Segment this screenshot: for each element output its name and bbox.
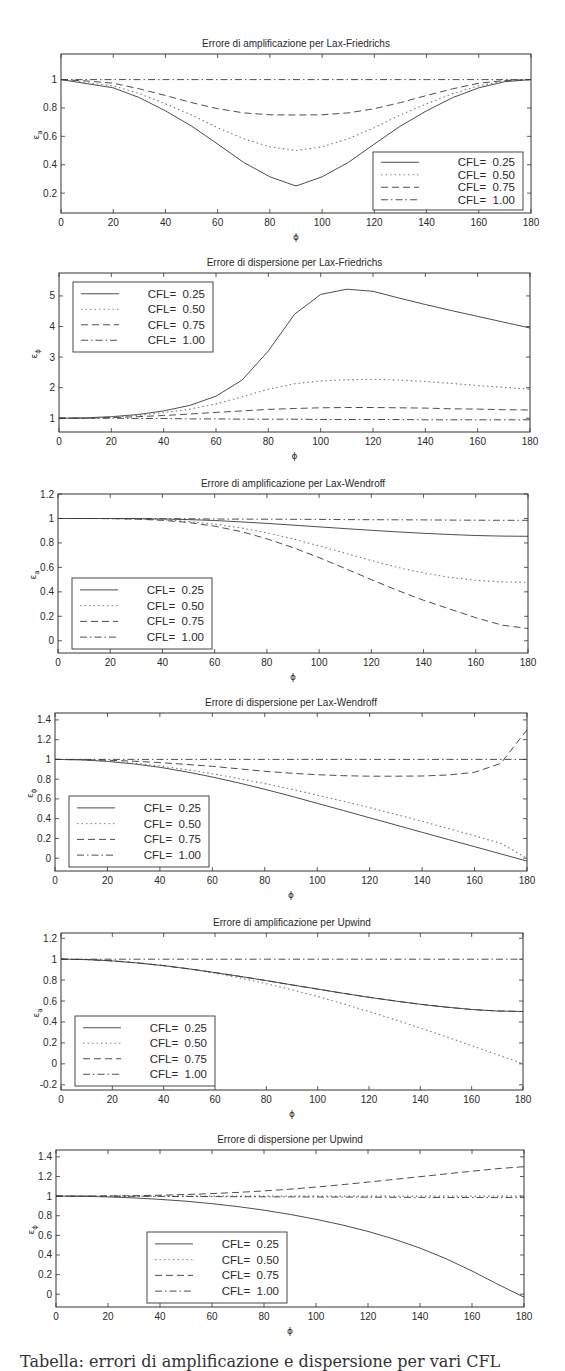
axes-frame [56,1150,524,1307]
chart-title: Errore di dispersione per Upwind [217,1134,363,1145]
y-tick-label: 1.4 [38,1151,52,1162]
y-tick-label: 0.8 [38,1210,52,1221]
figure-caption: Tabella: errori di amplificazione e disp… [20,1352,500,1371]
x-tick-label: 180 [516,1311,533,1322]
x-tick-label: 100 [308,1311,325,1322]
y-tick-label: 1 [46,1191,52,1202]
x-tick-label: 0 [53,1311,59,1322]
plot-area [56,1167,524,1298]
x-tick-label: 140 [412,1311,429,1322]
y-tick-label: 1.2 [38,1171,52,1182]
series-line-2 [56,1167,524,1196]
x-tick-label: 160 [464,1311,481,1322]
legend-label: CFL= 1.00 [222,1285,279,1297]
y-tick-label: 0.2 [38,1269,52,1280]
x-tick-label: 20 [102,1311,114,1322]
x-tick-label: 60 [206,1311,218,1322]
x-axis-label: ϕ [287,1326,293,1336]
y-tick-label: 0.6 [38,1230,52,1241]
x-tick-label: 80 [258,1311,270,1322]
series-line-0 [56,1196,524,1297]
legend-label: CFL= 0.50 [222,1254,279,1266]
x-tick-label: 40 [154,1311,166,1322]
y-axis-label: εϕ [26,1225,39,1235]
y-tick-label: 0 [46,1289,52,1300]
legend: CFL= 0.25CFL= 0.50CFL= 0.75CFL= 1.00 [147,1232,287,1303]
legend-label: CFL= 0.75 [222,1269,279,1281]
legend-label: CFL= 0.25 [222,1238,279,1250]
x-tick-label: 120 [360,1311,377,1322]
y-tick-label: 0.4 [38,1249,52,1260]
